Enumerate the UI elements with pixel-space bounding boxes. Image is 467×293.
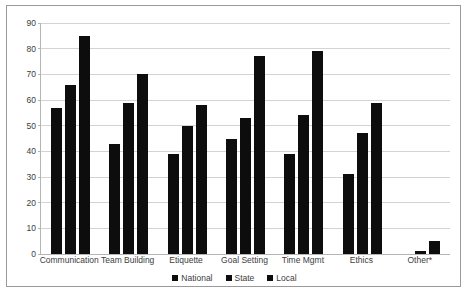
bar xyxy=(254,56,265,254)
legend-label: State xyxy=(235,274,255,283)
bar xyxy=(79,36,90,254)
x-axis-labels: CommunicationTeam BuildingEtiquetteGoal … xyxy=(40,256,450,270)
bar xyxy=(371,103,382,254)
bar xyxy=(226,139,237,255)
bar xyxy=(65,85,76,254)
bar xyxy=(240,118,251,254)
bar xyxy=(123,103,134,254)
legend-label: National xyxy=(181,274,212,283)
bar xyxy=(312,51,323,254)
bar xyxy=(196,105,207,254)
x-axis-label: Time Mgmt xyxy=(282,256,324,265)
x-axis-label: Team Building xyxy=(101,256,154,265)
y-axis-tick-label: 10 xyxy=(27,224,36,233)
bar xyxy=(429,241,440,254)
legend-item[interactable]: Local xyxy=(267,274,296,283)
bar-group xyxy=(158,23,216,254)
y-axis-tick-label: 70 xyxy=(27,70,36,79)
legend-label: Local xyxy=(276,274,296,283)
bars-layer xyxy=(41,23,450,254)
x-axis-label: Other* xyxy=(407,256,432,265)
y-axis-tick-label: 40 xyxy=(27,147,36,156)
chart-container: 0102030405060708090 CommunicationTeam Bu… xyxy=(0,0,467,293)
x-axis-label: Etiquette xyxy=(169,256,203,265)
bar xyxy=(284,154,295,254)
y-axis-tick-label: 20 xyxy=(27,198,36,207)
chart-border: 0102030405060708090 CommunicationTeam Bu… xyxy=(6,5,461,287)
bar xyxy=(357,133,368,254)
bar xyxy=(51,108,62,254)
y-axis-tick-label: 50 xyxy=(27,121,36,130)
x-axis-label: Communication xyxy=(40,256,99,265)
chart-legend: NationalStateLocal xyxy=(7,274,462,283)
legend-swatch-icon xyxy=(226,275,232,281)
y-axis-tick-label: 80 xyxy=(27,44,36,53)
bar-group xyxy=(216,23,274,254)
y-axis-tick-label: 60 xyxy=(27,96,36,105)
bar-group xyxy=(275,23,333,254)
bar xyxy=(109,144,120,254)
bar-group xyxy=(99,23,157,254)
bar-group xyxy=(41,23,99,254)
bar xyxy=(182,126,193,254)
bar-group xyxy=(333,23,391,254)
bar xyxy=(168,154,179,254)
plot-area: 0102030405060708090 xyxy=(40,23,450,254)
bar-group xyxy=(392,23,450,254)
y-axis-tick-label: 30 xyxy=(27,173,36,182)
legend-item[interactable]: State xyxy=(226,274,255,283)
bar xyxy=(298,115,309,254)
bar xyxy=(343,174,354,254)
bar xyxy=(137,74,148,254)
legend-item[interactable]: National xyxy=(172,274,212,283)
x-axis-label: Goal Setting xyxy=(221,256,268,265)
legend-swatch-icon xyxy=(172,275,178,281)
legend-swatch-icon xyxy=(267,275,273,281)
y-axis-tick-label: 0 xyxy=(31,250,36,259)
x-axis-label: Ethics xyxy=(350,256,373,265)
y-axis-tick-label: 90 xyxy=(27,19,36,28)
bar xyxy=(415,251,426,254)
